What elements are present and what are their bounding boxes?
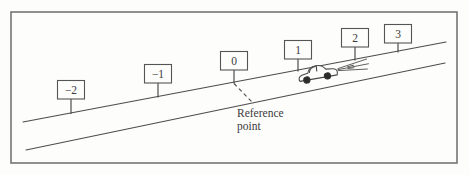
car-wheel-rear [303,76,310,83]
car-wheel-front [324,72,331,79]
sign-label: 2 [352,32,358,44]
reference-leader-line [234,84,253,103]
sign-marker-3: 3 [385,25,412,53]
sign-label: −1 [152,68,164,80]
reference-label-line1: Reference [237,107,284,119]
reference-point-label: Reference point [237,107,284,133]
sign-marker-0: 0 [221,52,248,84]
car-icon [297,57,370,85]
reference-label-line2: point [237,120,261,133]
sign-label: −2 [65,84,77,96]
sign-label: 1 [295,44,301,56]
sign-label: 0 [231,55,237,67]
sign-marker-1: 1 [285,41,312,72]
position-diagram: −2 −1 0 1 2 3 [0,0,469,175]
sign-label: 3 [395,28,401,40]
sign-marker-neg1: −1 [145,65,172,98]
sign-marker-neg2: −2 [58,81,85,115]
sign-marker-2: 2 [342,29,369,61]
road-near-edge-line [26,63,445,150]
figure-canvas: −2 −1 0 1 2 3 [0,0,469,175]
car-body [297,62,338,81]
